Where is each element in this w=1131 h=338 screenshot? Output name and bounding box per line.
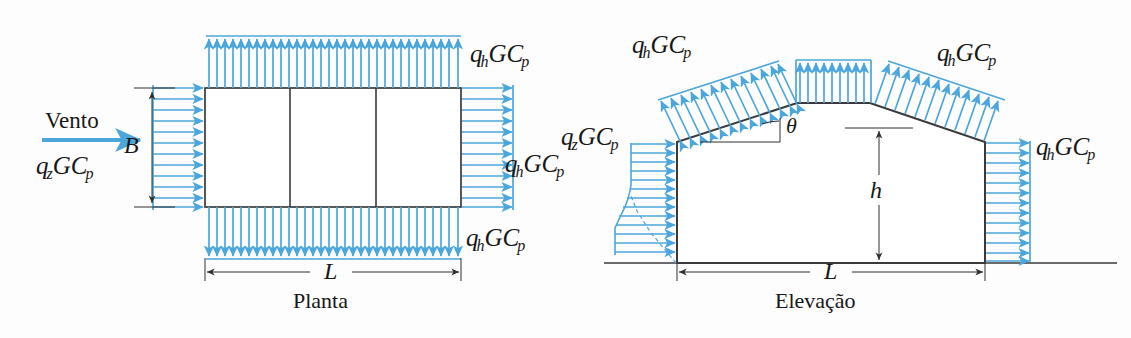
plan-bottom-p-sub: p — [517, 237, 525, 254]
plan-top-p-sub: p — [521, 53, 529, 70]
plan-windward-G: GC — [53, 152, 88, 179]
elev-lroof-q-sub: h — [643, 44, 651, 61]
plan-leeward-pressure-label: qhGCp — [505, 150, 564, 181]
plan-dimension-B-label: B — [124, 132, 139, 159]
elevation-leeward-pressure-label: qhGCp — [1036, 133, 1095, 164]
pressure-profile-dashed — [631, 196, 676, 263]
wind-direction-label: Vento — [45, 108, 99, 134]
plan-leeward-q-sub: h — [516, 163, 524, 180]
elevation-caption: Elevação — [775, 288, 856, 314]
elev-rroof-q-sub: h — [948, 52, 956, 69]
elevation-windward-pressure-label: qzGCp — [561, 123, 618, 154]
elevation-dimension-L-label: L — [824, 258, 837, 285]
elev-wind-p-sub: p — [610, 136, 618, 153]
elevation-windward-wall-arrows — [615, 143, 676, 263]
plan-leeward-suction-arrows — [462, 85, 513, 210]
plan-top-q-sub: h — [481, 53, 489, 70]
plan-top-suction-arrows — [206, 36, 461, 88]
plan-caption: Planta — [293, 288, 348, 314]
plan-dimension-B — [134, 88, 175, 207]
elevation-view — [604, 60, 1117, 281]
figure-canvas: Vento qzGCp B L qhGCp qhGCp qhGCp Planta… — [0, 0, 1131, 338]
plan-leeward-p-sub: p — [556, 163, 564, 180]
elevation-angle-theta-label: θ — [786, 113, 797, 139]
elev-lee-G: GC — [1055, 133, 1090, 160]
plan-bottom-q-sub: h — [477, 237, 485, 254]
elev-rroof-G: GC — [956, 39, 991, 66]
elevation-dimension-h-label: h — [870, 177, 882, 204]
plan-windward-pressure-label: qzGCp — [36, 152, 93, 183]
elevation-right-roof-pressure-label: qhGCp — [937, 39, 996, 70]
plan-view — [42, 36, 513, 281]
elevation-leeward-wall-arrows — [986, 141, 1030, 262]
plan-top-pressure-label: qhGCp — [470, 40, 529, 71]
elevation-building-outline — [677, 103, 985, 263]
elev-lroof-p-sub: p — [683, 44, 691, 61]
elevation-left-roof-pressure-label: qhGCp — [632, 31, 691, 62]
elev-lee-p-sub: p — [1087, 146, 1095, 163]
plan-bottom-pressure-label: qhGCp — [466, 224, 525, 255]
elev-lee-q-sub: h — [1047, 146, 1055, 163]
plan-windward-pressure-arrows — [153, 85, 203, 210]
elev-wind-G: GC — [578, 123, 613, 150]
plan-leeward-G: GC — [524, 150, 559, 177]
plan-bottom-G: GC — [485, 224, 520, 251]
plan-bottom-suction-arrows — [206, 207, 461, 259]
plan-dimension-L-label: L — [324, 258, 337, 285]
elev-lroof-G: GC — [651, 31, 686, 58]
plan-windward-p-sub: p — [85, 165, 93, 182]
elevation-ridge-arrows — [796, 60, 871, 103]
elev-rroof-p-sub: p — [988, 52, 996, 69]
plan-building-outline — [205, 88, 461, 207]
plan-top-G: GC — [489, 40, 524, 67]
